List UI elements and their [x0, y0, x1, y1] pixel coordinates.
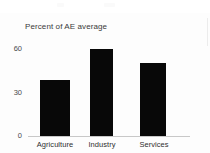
chart-figure: Percent of AE average 60 30 0 Agricultur…	[0, 0, 210, 153]
bar-agriculture	[40, 80, 70, 136]
x-axis-baseline	[28, 136, 190, 137]
x-axis-tick-label-industry: Industry	[77, 140, 127, 149]
y-axis-tick-label-30: 30	[6, 88, 22, 97]
panel-divider	[207, 18, 208, 46]
y-axis-tick-label-0: 0	[6, 131, 22, 140]
y-axis-tick-label-60: 60	[6, 44, 22, 53]
plot-area: 60 30 0 Agriculture Industry Services	[0, 0, 210, 153]
x-axis-tick-label-agriculture: Agriculture	[26, 140, 84, 149]
bar-services	[140, 63, 166, 136]
bar-industry	[90, 49, 113, 136]
x-axis-tick-label-services: Services	[128, 140, 180, 149]
